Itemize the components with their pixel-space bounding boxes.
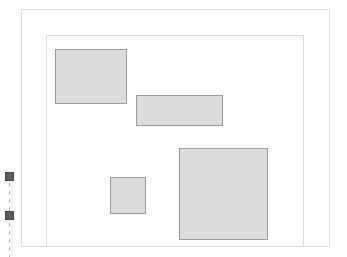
marker-handle-2[interactable]: [5, 211, 14, 220]
box-1[interactable]: [55, 49, 127, 104]
box-3[interactable]: [110, 177, 146, 214]
dashed-connector-line: [9, 183, 10, 257]
marker-handle-1[interactable]: [5, 172, 14, 181]
box-4[interactable]: [179, 148, 268, 240]
box-2[interactable]: [136, 95, 223, 126]
